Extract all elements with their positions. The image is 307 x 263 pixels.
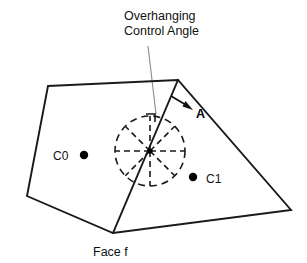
face-f-label: Face f bbox=[93, 245, 128, 259]
c1-dot bbox=[189, 173, 197, 181]
overhanging-control-angle-figure: Overhanging Control Angle A bbox=[0, 0, 307, 263]
normal-vector-label: A bbox=[196, 107, 205, 121]
normal-vector-arrow-head bbox=[183, 101, 194, 110]
spoke-se bbox=[150, 151, 175, 176]
diagram-canvas: Overhanging Control Angle A bbox=[0, 0, 307, 263]
c1-label: C1 bbox=[206, 172, 222, 186]
annotation-leader-line bbox=[148, 46, 156, 114]
control-circle-center-dot bbox=[147, 148, 152, 153]
annotation-title-line-1: Overhanging bbox=[124, 9, 196, 23]
c0-label: C0 bbox=[53, 149, 69, 163]
c0-dot bbox=[80, 151, 88, 159]
spoke-nw bbox=[125, 126, 150, 151]
annotation-title-line-2: Control Angle bbox=[124, 24, 199, 38]
fold-edge-line bbox=[113, 80, 178, 233]
spoke-sw bbox=[125, 151, 150, 176]
